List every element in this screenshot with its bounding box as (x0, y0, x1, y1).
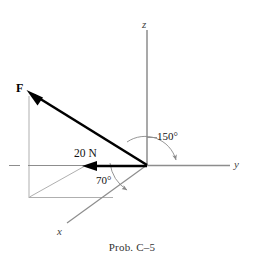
coordinate-axes (9, 30, 230, 223)
angle-label-70: 70° (96, 175, 111, 186)
z-axis-label: z (142, 19, 146, 30)
horizontal-component-arrowhead (82, 161, 97, 171)
y-axis-label: y (234, 159, 239, 170)
x-axis-label: x (57, 226, 62, 237)
angle-label-150: 150° (157, 131, 178, 142)
vector-diagram-svg (0, 0, 264, 266)
construction-diagonal-to-component-tip (30, 167, 85, 198)
figure-caption: Prob. C–5 (0, 241, 264, 253)
horizontal-component-group (82, 161, 147, 171)
force-vector-label: F (16, 82, 23, 94)
force-magnitude-label: 20 N (74, 148, 97, 160)
figure-root: z y x F 20 N 150° 70° Prob. C–5 (0, 0, 264, 266)
